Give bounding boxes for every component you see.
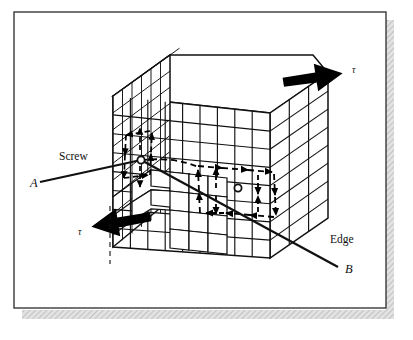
mixed-dislocation-figure: Screw A Edge B τ τ	[0, 0, 413, 340]
edge-core-node	[234, 184, 241, 191]
label-point-b: B	[345, 262, 353, 276]
label-tau-top: τ	[352, 65, 356, 75]
screw-core-node	[137, 156, 144, 163]
label-point-a: A	[29, 176, 38, 190]
label-screw: Screw	[59, 150, 88, 162]
figure-container: Screw A Edge B τ τ	[0, 0, 413, 340]
label-edge: Edge	[330, 233, 354, 246]
label-tau-bottom: τ	[78, 227, 82, 237]
